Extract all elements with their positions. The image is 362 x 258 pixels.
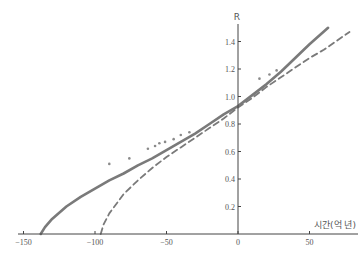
y-tick-label: 0.4	[225, 175, 235, 184]
data-point	[188, 131, 191, 134]
x-tick-label: 0	[236, 238, 240, 247]
data-point	[164, 141, 167, 144]
data-point	[108, 163, 111, 166]
y-tick-label: 1.4	[225, 38, 235, 47]
y-tick-label: 1.0	[225, 93, 235, 102]
y-tick-label: 0.2	[225, 203, 235, 212]
data-point	[180, 134, 183, 137]
plot-area	[41, 28, 350, 234]
x-tick-label: −100	[87, 238, 104, 247]
x-ticks: −150−100−50050	[15, 231, 313, 247]
solid-model-line	[41, 28, 328, 234]
data-point	[268, 73, 271, 76]
x-axis-title: 시간(억 년)	[314, 219, 356, 230]
data-point	[275, 69, 278, 72]
data-point	[158, 142, 161, 145]
y-axis-title: R	[234, 12, 240, 22]
y-tick-label: 1.2	[225, 65, 235, 74]
data-point	[154, 145, 157, 148]
chart: −150−100−50050 0.20.40.60.81.01.21.4 R 시…	[0, 0, 362, 258]
x-tick-label: 50	[306, 238, 314, 247]
y-ticks: 0.20.40.60.81.01.21.4	[225, 38, 241, 212]
data-point	[172, 138, 175, 141]
data-point	[147, 147, 150, 150]
y-tick-label: 0.8	[225, 120, 235, 129]
x-tick-label: −50	[160, 238, 173, 247]
data-point	[258, 77, 261, 80]
data-point	[128, 157, 131, 160]
x-tick-label: −150	[15, 238, 32, 247]
y-tick-label: 0.6	[225, 148, 235, 157]
